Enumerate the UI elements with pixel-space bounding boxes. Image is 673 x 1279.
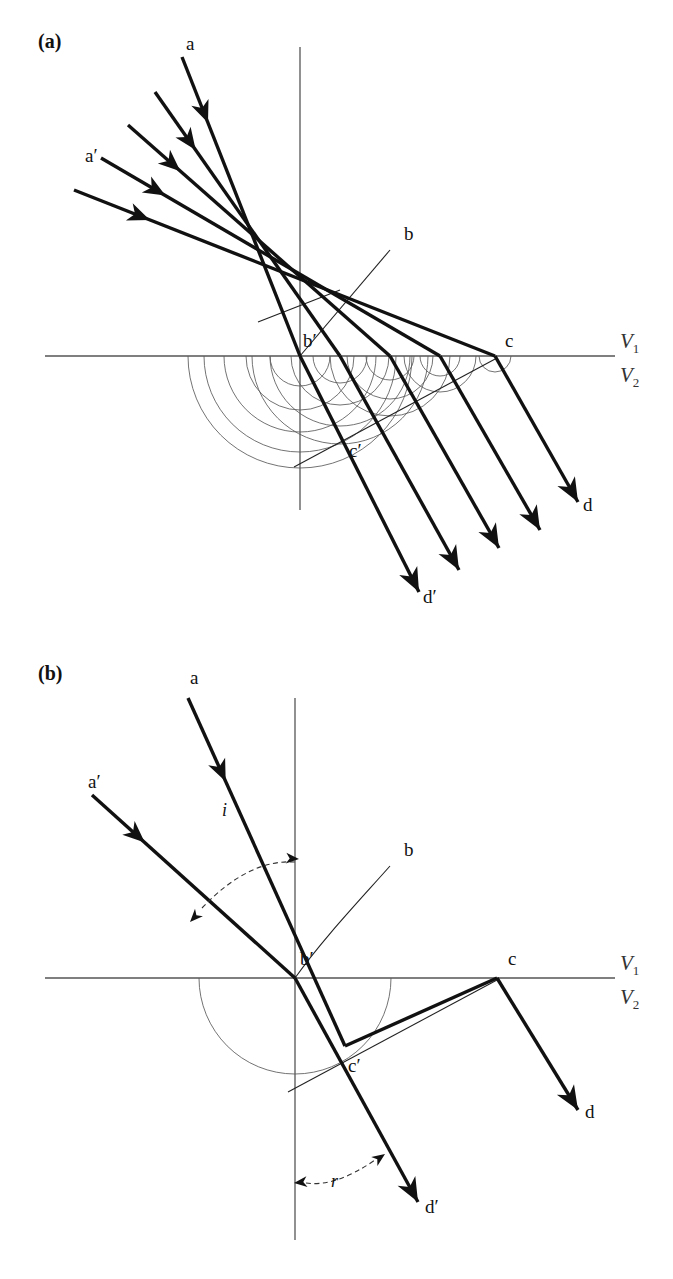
panel-a-tag: (a) xyxy=(38,30,61,53)
angle-r-label: r xyxy=(331,1171,339,1191)
ray-a-label-b: a xyxy=(190,667,199,688)
wavefront-lines-a xyxy=(258,250,497,467)
point-c-label-a: c xyxy=(505,330,513,351)
velocity-label-v2-b: V2 xyxy=(620,985,639,1012)
incident-arrowheads-b xyxy=(122,758,225,843)
angle-r-marker: r xyxy=(294,1154,385,1191)
refraction-figure: (a)V1V2aa′bb′cc′dd′ (b)V1V2iraa′bb′cc′dd… xyxy=(0,0,673,1279)
angle-r-arrowhead-right xyxy=(371,1154,385,1166)
ray-d-label-a: d xyxy=(583,494,593,515)
ray-d-prime-label-b: d′ xyxy=(425,1196,439,1217)
refracted-rays-b xyxy=(295,978,578,1202)
panel-b: (b)V1V2iraa′bb′cc′dd′ xyxy=(0,640,673,1279)
point-c-prime-label-b: c′ xyxy=(348,1055,361,1076)
velocity-label-v1-a: V1 xyxy=(620,329,639,356)
refracted-arrowheads-b xyxy=(398,1084,578,1202)
point-c-prime-label-a: c′ xyxy=(349,440,362,461)
angle-r-arc xyxy=(306,1160,375,1184)
ray-a-prime-label-b: a′ xyxy=(88,771,101,792)
point-b-prime-label-a: b′ xyxy=(303,330,317,351)
ray-d-prime-label-a: d′ xyxy=(423,586,437,607)
ray-a-prime-label-a: a′ xyxy=(85,145,98,166)
panel-a: (a)V1V2aa′bb′cc′dd′ xyxy=(0,0,673,640)
refracted-arrowheads-a xyxy=(399,476,578,592)
angle-r-arrowhead-left xyxy=(294,1176,308,1187)
velocity-label-v1-b: V1 xyxy=(620,951,639,978)
point-b-label-a: b xyxy=(404,223,414,244)
angle-i-label: i xyxy=(222,800,227,820)
ray-a-label-a: a xyxy=(186,33,195,54)
point-c-label-b: c xyxy=(508,948,516,969)
panel-b-tag: (b) xyxy=(38,662,62,685)
point-b-prime-label-b: b′ xyxy=(300,948,314,969)
velocity-label-v2-a: V2 xyxy=(620,363,639,390)
point-b-label-b: b xyxy=(404,839,414,860)
wavefront-lines-b xyxy=(288,866,497,1092)
ray-d-label-b: d xyxy=(585,1101,595,1122)
angle-i-arrowhead-left xyxy=(190,909,203,922)
